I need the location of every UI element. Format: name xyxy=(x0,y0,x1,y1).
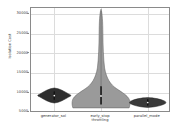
y-axis-title: Isolation Cost xyxy=(8,20,12,72)
y-tick-mark-30000 xyxy=(27,13,29,14)
violin-plot-figure: 5000 10000 15000 20000 25000 30000 Isola… xyxy=(0,0,177,133)
plot-area xyxy=(30,7,170,112)
y-tick-mark-5000 xyxy=(27,111,29,112)
y-tick-mark-10000 xyxy=(27,92,29,93)
x-tick-label-parallel-mode: parallel_mode xyxy=(117,114,177,118)
y-tick-label-10000: 10000 xyxy=(0,90,28,94)
violin-parallel-mode xyxy=(31,8,170,112)
y-tick-mark-25000 xyxy=(27,33,29,34)
y-tick-label-20000: 20000 xyxy=(0,51,28,55)
y-tick-mark-15000 xyxy=(27,72,29,73)
y-tick-label-5000: 5000 xyxy=(0,109,28,113)
y-tick-mark-20000 xyxy=(27,52,29,53)
y-tick-label-30000: 30000 xyxy=(0,11,28,15)
y-tick-label-25000: 25000 xyxy=(0,31,28,35)
y-tick-label-15000: 15000 xyxy=(0,70,28,74)
